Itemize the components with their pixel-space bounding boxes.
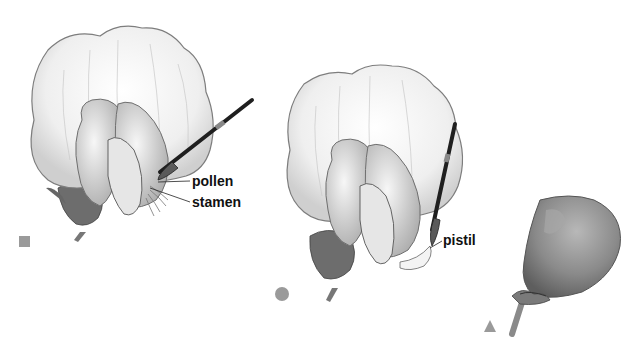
label-pistil: pistil [443,233,476,247]
label-pollen: pollen [192,174,233,188]
circle-marker [275,287,289,301]
triangle-marker [484,320,496,332]
illustration-drawing [0,0,641,352]
flower-2 [287,65,462,302]
bagged-flower [512,196,620,334]
square-marker [19,236,30,247]
label-stamen: stamen [192,195,241,209]
pollination-illustration: pollen stamen pistil [0,0,641,352]
